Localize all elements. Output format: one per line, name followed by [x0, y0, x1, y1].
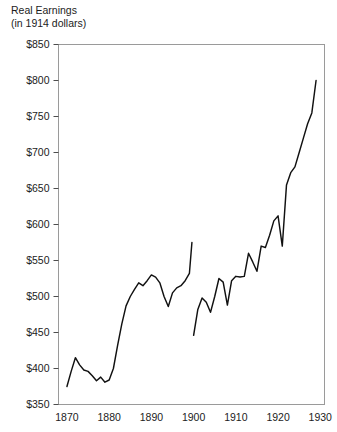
y-tick-label: $800	[26, 74, 50, 86]
x-axis-labels: 1870188018901900191019201930	[55, 411, 332, 423]
y-tick-label: $350	[26, 398, 50, 410]
plot-area: $350$400$450$500$550$600$650$700$750$800…	[0, 0, 337, 432]
x-tick-label: 1930	[309, 411, 333, 423]
plot-frame	[59, 45, 325, 405]
y-tick-label: $400	[26, 362, 50, 374]
x-tick-label: 1880	[97, 411, 121, 423]
y-tick-label: $450	[26, 326, 50, 338]
y-axis-ticks	[54, 45, 59, 405]
x-tick-label: 1920	[266, 411, 290, 423]
y-tick-label: $850	[26, 38, 50, 50]
x-tick-label: 1910	[224, 411, 248, 423]
y-tick-label: $600	[26, 218, 50, 230]
real-earnings-chart: Real Earnings (in 1914 dollars) $350$400…	[0, 0, 337, 432]
y-tick-label: $500	[26, 290, 50, 302]
y-tick-label: $750	[26, 110, 50, 122]
y-tick-label: $700	[26, 146, 50, 158]
x-tick-label: 1870	[55, 411, 79, 423]
x-tick-label: 1900	[182, 411, 206, 423]
y-tick-label: $550	[26, 254, 50, 266]
y-tick-label: $650	[26, 182, 50, 194]
y-axis-labels: $350$400$450$500$550$600$650$700$750$800…	[26, 38, 50, 410]
x-tick-label: 1890	[140, 411, 164, 423]
